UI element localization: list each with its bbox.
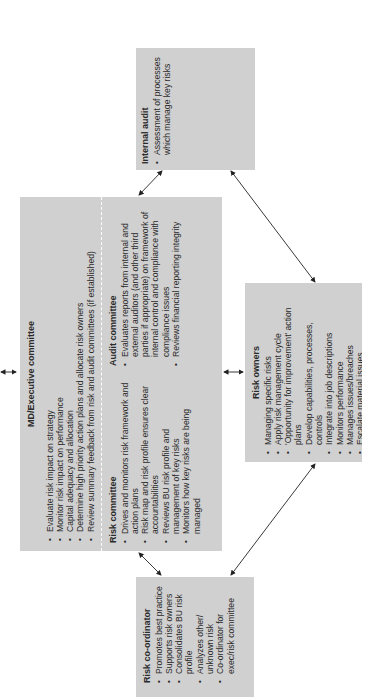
arrow-risk-owners-to-coordinator	[231, 464, 315, 575]
arrow-audit-to-risk-owners	[231, 171, 315, 282]
arrow-audit-to-executive	[139, 171, 162, 195]
arrow-executive-to-coordinator	[139, 553, 161, 575]
